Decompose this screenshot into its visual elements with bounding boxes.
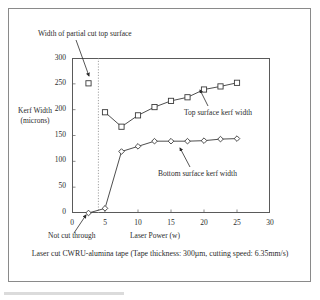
y-axis-title-line2: (microns) <box>6 116 64 126</box>
data-point-marker <box>119 149 125 155</box>
data-point-marker <box>218 136 224 142</box>
data-point-marker <box>102 206 108 212</box>
y-axis-title-line1: Kerf Width <box>18 106 52 115</box>
x-tick-label: 30 <box>260 219 280 227</box>
figure-caption: Laser cut CWRU-alumina tape (Tape thickn… <box>14 249 306 259</box>
x-tick-label: 0 <box>62 219 82 227</box>
x-tick-label: 10 <box>128 219 148 227</box>
data-point-marker <box>234 80 239 85</box>
y-axis-title: Kerf Width (microns) <box>6 106 64 126</box>
data-point-marker <box>152 104 157 109</box>
scan-artifact <box>4 292 124 295</box>
data-point-marker <box>135 144 141 150</box>
data-point-marker <box>135 113 140 118</box>
y-tick-label: 150 <box>44 131 66 139</box>
x-axis-title: Laser Power (w) <box>130 231 180 240</box>
y-tick-label: 50 <box>44 182 66 190</box>
data-point-marker <box>152 138 158 144</box>
y-tick-label: 250 <box>44 79 66 87</box>
annotation-not-cut-through: Not cut through <box>48 231 96 240</box>
data-point-marker <box>185 138 191 144</box>
y-tick-label: 300 <box>44 54 66 62</box>
y-tick-label: 0 <box>44 208 66 216</box>
data-point-marker <box>168 98 173 103</box>
annotation-top-surface-kerf-width: Top surface kerf width <box>184 108 252 117</box>
data-point-marker <box>119 124 124 129</box>
x-tick-label: 25 <box>227 219 247 227</box>
annotation-partial-cut-top-surface: Width of partial cut top surface <box>38 29 132 38</box>
annotation-bottom-surface-kerf-width: Bottom surface kerf width <box>158 169 237 178</box>
data-point-marker <box>234 136 240 142</box>
x-tick-label: 5 <box>95 219 115 227</box>
data-point-marker <box>201 138 207 144</box>
plot-area <box>72 58 270 213</box>
data-point-marker <box>86 81 91 86</box>
data-point-marker <box>102 110 107 115</box>
x-tick-label: 15 <box>161 219 181 227</box>
x-tick-label: 20 <box>194 219 214 227</box>
data-point-marker <box>218 84 223 89</box>
data-point-marker <box>168 138 174 144</box>
data-point-marker <box>201 87 206 92</box>
data-point-marker <box>185 95 190 100</box>
series-line-0 <box>105 83 237 127</box>
chart-canvas <box>72 58 270 213</box>
y-tick-label: 100 <box>44 156 66 164</box>
